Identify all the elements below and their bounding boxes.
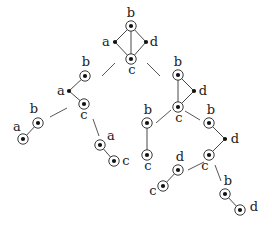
node-label: c — [128, 62, 135, 77]
subgraph-g-dc: dc — [149, 149, 184, 198]
node-c: c — [173, 102, 183, 125]
node-label: b — [174, 54, 182, 69]
connector-line — [93, 119, 99, 136]
node-c: c — [201, 150, 214, 173]
connector-line — [50, 108, 67, 117]
node-label: b — [207, 102, 215, 117]
node-dot-icon — [36, 121, 40, 125]
node-d: d — [144, 34, 158, 49]
node-dot-icon — [67, 89, 71, 93]
node-label: d — [150, 34, 158, 49]
node-dot-icon — [176, 73, 180, 77]
connector-line — [156, 110, 171, 123]
node-dot-icon — [145, 153, 149, 157]
node-dot-icon — [207, 153, 211, 157]
node-dot-icon — [223, 192, 227, 196]
node-dot-icon — [145, 121, 149, 125]
connector-line — [185, 111, 200, 120]
node-dot-icon — [207, 121, 211, 125]
node-b: b — [126, 5, 136, 31]
connector-line — [102, 63, 115, 76]
node-label: d — [199, 83, 207, 98]
node-label: c — [201, 158, 208, 173]
node-dot-icon — [98, 143, 102, 147]
node-label: c — [144, 158, 151, 173]
connector-line — [215, 165, 221, 181]
node-label: b — [127, 5, 135, 20]
node-label: b — [82, 54, 90, 69]
node-dot-icon — [223, 137, 227, 141]
node-dot-icon — [161, 184, 165, 188]
node-label: b — [144, 102, 152, 117]
node-label: d — [176, 149, 184, 164]
node-b: b — [142, 102, 152, 128]
node-b: b — [220, 173, 232, 199]
node-b: b — [30, 101, 43, 128]
node-c: c — [79, 99, 89, 122]
subgraph-g-bd: bd — [220, 173, 258, 215]
node-d: d — [235, 199, 258, 215]
node-label: b — [224, 173, 232, 188]
node-c: c — [149, 181, 168, 198]
node-a: a — [57, 83, 71, 98]
subgraph-g-bdc: bdc — [201, 102, 239, 173]
node-c: c — [109, 153, 130, 168]
node-label: d — [231, 131, 239, 146]
node-dot-icon — [129, 24, 133, 28]
node-label: c — [80, 107, 87, 122]
node-label: c — [122, 153, 129, 168]
node-b: b — [80, 54, 90, 81]
node-b: b — [173, 54, 183, 80]
node-dot-icon — [238, 208, 242, 212]
node-dot-icon — [112, 159, 116, 163]
node-dot-icon — [113, 40, 117, 44]
node-dot-icon — [129, 57, 133, 61]
node-label: d — [250, 199, 258, 214]
subgraph-g-bc: bc — [142, 102, 152, 173]
node-b: b — [204, 102, 215, 128]
node-dot-icon — [21, 137, 25, 141]
node-a: a — [95, 128, 115, 150]
node-label: c — [149, 183, 156, 198]
subgraph-g-ab: ba — [13, 101, 43, 144]
node-label: a — [107, 128, 115, 143]
lattice-diagram: badcbacbdcbaacbcbdcdcbd — [0, 0, 272, 229]
node-label: a — [102, 34, 110, 49]
node-label: c — [175, 110, 182, 125]
subgraphs: badcbacbdcbaacbcbdcdcbd — [13, 5, 258, 215]
subgraph-connectors — [50, 63, 221, 181]
node-dot-icon — [82, 102, 86, 106]
node-label: b — [30, 101, 38, 116]
subgraph-g-ac: ac — [95, 128, 130, 168]
connector-line — [147, 63, 160, 76]
subgraph-g-left: bac — [57, 54, 90, 122]
node-dot-icon — [192, 89, 196, 93]
node-a: a — [102, 34, 117, 49]
node-label: a — [13, 119, 21, 134]
node-label: a — [57, 83, 65, 98]
node-d: d — [173, 149, 184, 175]
node-dot-icon — [83, 74, 87, 78]
node-a: a — [13, 119, 28, 144]
node-dot-icon — [176, 168, 180, 172]
node-d: d — [223, 131, 239, 146]
node-d: d — [192, 83, 207, 98]
node-c: c — [126, 54, 136, 77]
node-dot-icon — [176, 105, 180, 109]
node-c: c — [142, 150, 152, 173]
node-dot-icon — [144, 40, 148, 44]
